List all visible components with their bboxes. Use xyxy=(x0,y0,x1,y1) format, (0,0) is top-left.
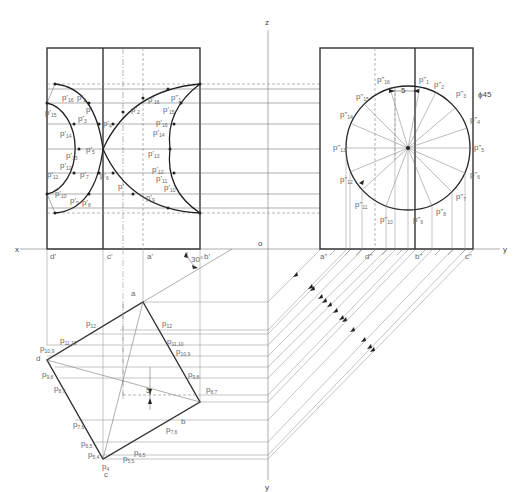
svg-text:a: a xyxy=(131,289,136,298)
svg-text:p'6: p'6 xyxy=(100,171,109,181)
top-view: 5 a b c d p12 p11,10 p10,9 p9,8 p8,7 p7,… xyxy=(36,289,218,479)
svg-text:p"3: p"3 xyxy=(456,89,466,99)
svg-text:p7,6: p7,6 xyxy=(166,425,178,435)
svg-text:p'8: p'8 xyxy=(82,198,91,208)
diagonal-arrows xyxy=(293,272,375,352)
svg-text:p"14: p"14 xyxy=(340,110,353,120)
svg-text:p'5: p'5 xyxy=(86,145,95,155)
y-axis-label-bottom: y xyxy=(265,483,269,492)
front-view: p'16 p'1 p' p'15 p'3 p'4 p'14 p'5 p'13 p… xyxy=(45,48,320,269)
side-vertical-projections xyxy=(346,90,465,249)
svg-text:p'11: p'11 xyxy=(47,170,58,180)
svg-text:p'10: p'10 xyxy=(55,189,67,199)
angle-label: 30° xyxy=(191,255,203,264)
svg-text:p'12: p'12 xyxy=(60,161,72,171)
svg-text:c': c' xyxy=(107,252,113,261)
x-axis-label: x xyxy=(15,245,19,254)
svg-text:p'7: p'7 xyxy=(80,170,89,180)
z-axis-label: z xyxy=(265,18,269,27)
svg-text:p'16: p'16 xyxy=(156,118,168,128)
svg-text:d': d' xyxy=(50,252,56,261)
svg-text:p'4: p'4 xyxy=(103,119,112,129)
svg-text:b": b" xyxy=(415,252,422,261)
y-axis-label-right: y xyxy=(503,245,507,254)
svg-text:p"9: p"9 xyxy=(413,215,423,225)
svg-text:p12: p12 xyxy=(162,319,172,329)
svg-text:p"10: p"10 xyxy=(380,215,393,225)
svg-text:p'13: p'13 xyxy=(66,151,78,161)
svg-text:b': b' xyxy=(204,252,210,261)
svg-text:p"12: p"12 xyxy=(340,175,353,185)
svg-text:p10,9: p10,9 xyxy=(40,344,54,354)
svg-text:p"2: p"2 xyxy=(434,80,444,90)
svg-text:p6,5: p6,5 xyxy=(134,448,146,458)
svg-text:p'13: p'13 xyxy=(148,149,160,159)
svg-text:p'9: p'9 xyxy=(70,196,79,206)
top-view-vertex-labels: a b c d xyxy=(36,289,186,479)
svg-text:p': p' xyxy=(118,182,124,191)
svg-text:p"8: p"8 xyxy=(436,207,446,217)
svg-text:p5,4: p5,4 xyxy=(88,450,100,460)
svg-text:p12: p12 xyxy=(86,319,96,329)
svg-text:p4: p4 xyxy=(102,462,109,472)
svg-text:p'15: p'15 xyxy=(163,105,175,115)
svg-text:a": a" xyxy=(320,252,327,261)
orthographic-projection-diagram: x y z y o xyxy=(0,0,514,492)
offset-side-label: 5 xyxy=(401,86,406,95)
svg-text:p'9: p'9 xyxy=(146,193,155,203)
svg-text:p7,6: p7,6 xyxy=(73,420,85,430)
svg-text:p11,10: p11,10 xyxy=(60,336,77,346)
svg-text:b: b xyxy=(181,417,186,426)
svg-text:c": c" xyxy=(465,252,472,261)
svg-text:p'16: p'16 xyxy=(62,93,74,103)
side-view: 5 ϕ45 p"1 p"2 p"3 p"4 p"5 p"6 p"7 p"8 p"… xyxy=(320,48,492,261)
svg-text:p6,5: p6,5 xyxy=(81,439,93,449)
diagonal-transfer-lines xyxy=(268,250,473,459)
origin-label: o xyxy=(258,239,263,248)
svg-text:p9,8: p9,8 xyxy=(42,370,54,380)
svg-text:p"15: p"15 xyxy=(356,92,369,102)
front-view-labels: p'16 p'1 p' p'15 p'3 p'4 p'14 p'5 p'13 p… xyxy=(45,93,181,208)
svg-text:p11,10: p11,10 xyxy=(167,337,184,347)
svg-text:p"1: p"1 xyxy=(419,75,429,85)
svg-text:p8,7: p8,7 xyxy=(54,384,66,394)
svg-text:p'3: p'3 xyxy=(78,114,87,124)
svg-text:p'14: p'14 xyxy=(153,128,165,138)
diameter-label: ϕ45 xyxy=(478,90,492,99)
offset-top-label: 5 xyxy=(146,386,151,395)
radius-arrow-icon xyxy=(359,180,364,185)
svg-text:p"4: p"4 xyxy=(470,115,480,125)
top-to-axis-projections xyxy=(47,302,268,459)
svg-text:p"13: p"13 xyxy=(333,143,346,153)
svg-text:p"16: p"16 xyxy=(377,75,390,85)
svg-text:p'14: p'14 xyxy=(60,129,72,139)
svg-text:p8,7: p8,7 xyxy=(206,385,218,395)
svg-text:p9,8: p9,8 xyxy=(188,370,200,380)
svg-text:p"1: p"1 xyxy=(171,93,181,103)
svg-text:p"11: p"11 xyxy=(355,200,368,210)
svg-text:p'2: p'2 xyxy=(131,105,140,115)
svg-text:p"6: p"6 xyxy=(470,170,480,180)
svg-text:p'16: p'16 xyxy=(148,95,160,105)
svg-text:p'15: p'15 xyxy=(45,108,57,118)
svg-text:p'1: p'1 xyxy=(77,93,86,103)
svg-text:p"5: p"5 xyxy=(474,143,484,153)
drawing-canvas: x y z y o xyxy=(0,0,514,492)
svg-text:p': p' xyxy=(86,105,92,114)
ground-hatching xyxy=(330,249,466,255)
svg-text:d: d xyxy=(36,354,40,363)
svg-text:a': a' xyxy=(147,252,153,261)
svg-text:p5,5: p5,5 xyxy=(123,454,135,464)
svg-text:p10,9: p10,9 xyxy=(176,347,190,357)
